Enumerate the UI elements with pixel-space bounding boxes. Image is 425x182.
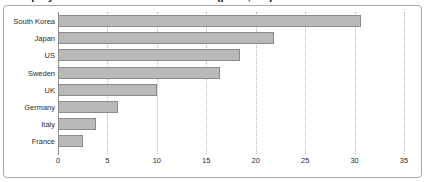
bar — [58, 84, 157, 96]
x-tick-label: 25 — [301, 156, 309, 165]
bar — [58, 118, 96, 130]
chart-panel: 05101520253035South KoreaJapanUSSwedenUK… — [3, 5, 422, 178]
category-label-row: France — [4, 137, 55, 146]
category-label: US — [45, 51, 55, 60]
category-label-row: Germany — [4, 103, 55, 112]
category-label: France — [32, 137, 55, 146]
category-label: Germany — [24, 103, 55, 112]
plot-area: 05101520253035South KoreaJapanUSSwedenUK… — [4, 6, 423, 179]
bar — [58, 101, 118, 113]
x-tick-label: 0 — [56, 156, 60, 165]
chart-figure: Employment in the automotive sector (per… — [0, 0, 425, 182]
category-label-row: Sweden — [4, 69, 55, 78]
bar — [58, 15, 361, 27]
category-label: South Korea — [13, 17, 55, 26]
bar — [58, 135, 83, 147]
category-label: Japan — [35, 34, 55, 43]
bar — [58, 32, 274, 44]
bar — [58, 49, 240, 61]
gridline-30 — [355, 12, 356, 154]
gridline-25 — [305, 12, 306, 154]
gridline-35 — [404, 12, 405, 154]
category-label: UK — [45, 86, 55, 95]
category-label: Italy — [41, 120, 55, 129]
category-label-row: Japan — [4, 34, 55, 43]
chart-title-text: Employment in the automotive sector (per… — [14, 0, 273, 2]
bar — [58, 67, 220, 79]
category-label-row: South Korea — [4, 17, 55, 26]
category-label: Sweden — [28, 69, 55, 78]
x-tick-label: 35 — [400, 156, 408, 165]
category-label-row: US — [4, 51, 55, 60]
x-tick-label: 20 — [252, 156, 260, 165]
category-label-row: Italy — [4, 120, 55, 129]
x-tick-label: 15 — [202, 156, 210, 165]
x-tick-label: 5 — [105, 156, 109, 165]
x-tick-label: 10 — [153, 156, 161, 165]
category-label-row: UK — [4, 86, 55, 95]
x-tick-label: 30 — [350, 156, 358, 165]
